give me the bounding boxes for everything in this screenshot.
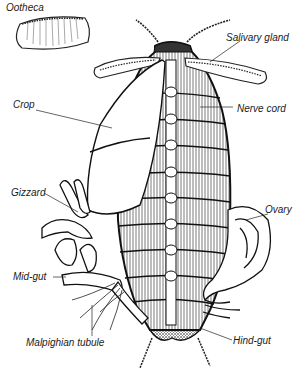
label-hind-gut: Hind-gut [233,336,271,346]
label-salivary-gland: Salivary gland [226,33,289,43]
label-crop: Crop [13,100,35,110]
label-ootheca: Ootheca [6,3,44,13]
label-gizzard: Gizzard [11,188,45,198]
label-malpighian-tubule: Malpighian tubule [26,338,104,348]
label-ovary: Ovary [265,205,292,215]
antennae-drawing [136,20,230,42]
label-nerve-cord: Nerve cord [237,104,286,114]
label-mid-gut: Mid-gut [13,272,46,282]
ootheca-drawing [16,17,89,49]
